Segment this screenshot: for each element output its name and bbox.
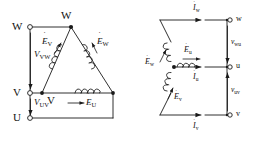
star-neutral-point [172,65,176,69]
current-label-u: ˙Iu [193,73,198,81]
current-dot-w: ˙ [193,0,195,7]
terminal-circle-U [28,116,33,121]
voltage-base-vw: V [34,49,40,59]
voltage-label-uv-star: vuv [231,86,240,94]
emf-dot-star-v: ˙ [175,89,177,96]
voltage-base-uv: V [34,97,40,107]
emf-label-star-w: ˙Ew [145,58,154,66]
emf-label-V: ˙EV [42,37,52,46]
voltage-label-wu: vwu [231,38,241,46]
emf-sub-star-u: u [189,49,192,55]
delta-terminal-label-V: V [13,87,21,98]
emf-dot-U: ˙ [87,93,90,101]
terminal-circle-W [28,25,33,30]
emf-dot-W: ˙ [98,32,101,40]
terminal-circle-u [228,65,232,69]
voltage-sub-vw: VW [40,53,51,60]
star-terminal-label-w: w [236,15,242,23]
emf-label-W: ˙EW [97,37,109,46]
star-coil-v [163,72,171,91]
emf-label-star-u: ˙Eu [184,46,192,54]
star-terminal-label-u: u [236,62,240,70]
current-sub-u: u [196,76,199,82]
delta-terminal-label-W: W [12,21,22,32]
emf-dot-star-u: ˙ [185,42,187,49]
terminal-circle-v [228,113,232,117]
emf-sub-W: W [103,40,109,47]
emf-sub-star-v: v [179,96,182,102]
star-coil-u [177,63,195,67]
current-label-w: ˙Iw [193,4,200,12]
star-coil-w [163,43,171,62]
junction-dots [29,19,229,116]
current-label-v: ˙Iv [193,122,198,130]
emf-label-star-v: ˙Ev [174,93,182,101]
terminal-circle-w [228,18,232,22]
emf-dot-star-w: ˙ [146,54,148,61]
current-dot-v: ˙ [193,118,195,125]
delta-vertex-u [111,91,115,95]
emf-dot-V: ˙ [43,32,46,40]
voltage-sub-wu: wu [234,41,241,47]
emf-sub-star-w: w [150,61,154,67]
emf-arrow-star-v [168,88,173,99]
delta-terminal-label-U: U [13,112,21,123]
star-terminal-label-v: v [236,110,240,118]
star-branch-w-diag [160,20,171,42]
voltage-label-uv: VUV [34,98,49,107]
emf-arrow-star-w [160,50,166,62]
delta-vertex-label-W: W [61,10,71,21]
terminal-circles [28,18,233,121]
current-dot-u: ˙ [193,69,195,76]
voltage-sub-uv: UV [40,101,49,108]
voltage-sub-uv-star: uv [234,89,240,95]
emf-sub-U: U [92,101,97,108]
delta-coil-v [49,45,61,69]
current-sub-w: w [196,7,200,13]
emf-sub-V: V [48,40,53,47]
delta-vertex-w [69,25,73,29]
voltage-label-vw: VVW [34,50,50,59]
circuit-diagram-canvas [0,0,262,142]
delta-vertex-v [40,91,44,95]
emf-label-U: ˙EU [86,98,96,107]
current-sub-v: v [196,125,199,131]
terminal-circle-V [28,91,33,96]
